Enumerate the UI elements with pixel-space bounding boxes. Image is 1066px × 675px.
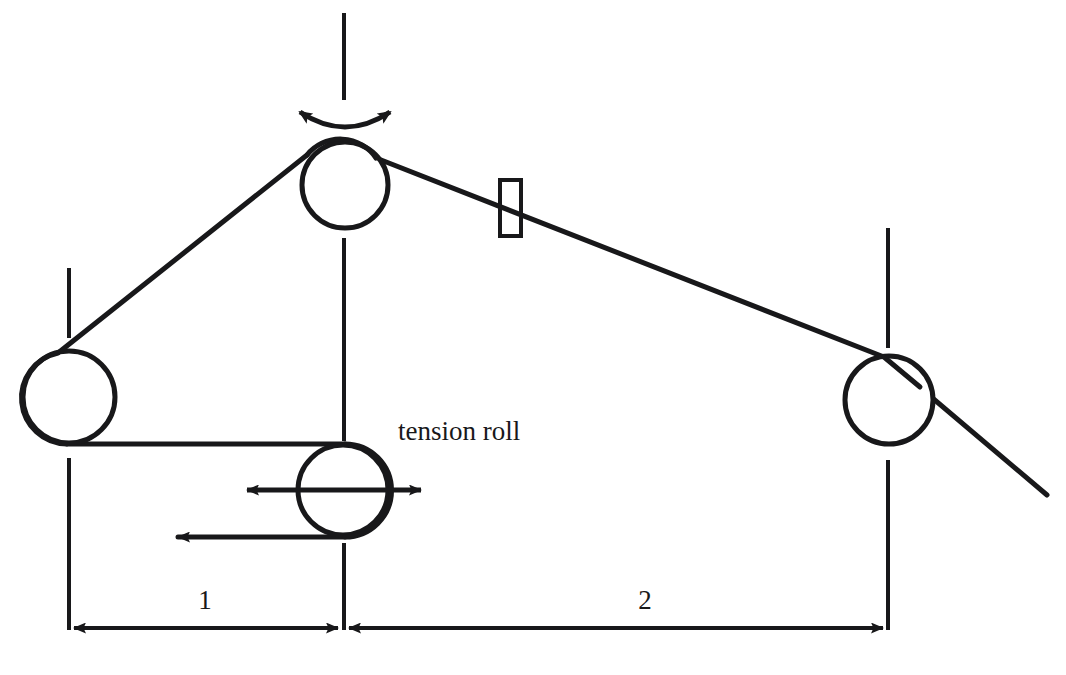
web-span-right-decline bbox=[376, 158, 884, 357]
dimension-label-span-2: 2 bbox=[638, 585, 652, 615]
web-span-left-incline bbox=[58, 155, 307, 353]
rotation-arrow-group bbox=[300, 112, 390, 127]
web-handling-diagram: tension roll 1 2 bbox=[0, 0, 1066, 675]
web-wrap-overlay bbox=[22, 139, 920, 537]
tension-roll-label: tension roll bbox=[398, 416, 520, 446]
rollers bbox=[23, 142, 933, 535]
roller-right[interactable] bbox=[845, 356, 933, 444]
rotation-arrow-bidirectional-icon bbox=[300, 112, 390, 127]
diagram-canvas: tension roll 1 2 bbox=[0, 0, 1066, 675]
web-path bbox=[58, 155, 1047, 537]
dimension-label-span-1: 1 bbox=[198, 585, 212, 615]
